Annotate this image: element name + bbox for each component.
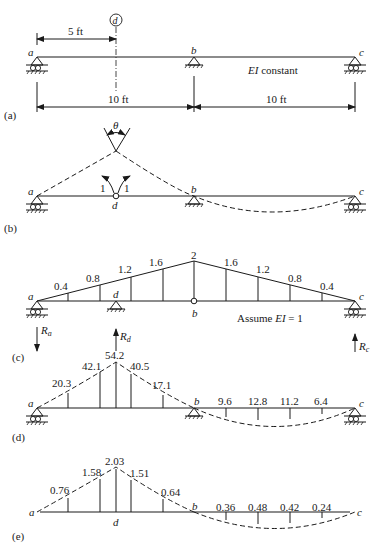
moment-label-left: 1: [100, 182, 106, 194]
node-label-b: b: [194, 395, 200, 407]
node-label-a: a: [28, 185, 34, 197]
ordinate-label: 0.8: [86, 272, 100, 284]
ordinate-peak: 2: [191, 249, 197, 261]
diagram-canvas: a b c d 5 ft 10 ft 10 ft EI constant (a): [0, 0, 388, 554]
dimension-label-ab: 10 ft: [108, 93, 128, 105]
ordinate-label: 20.3: [52, 377, 72, 389]
ordinate-label: 0.48: [248, 501, 268, 513]
pin-support-b: [185, 408, 203, 419]
m-ei-diagram: [37, 261, 355, 301]
ordinate-label: 42.1: [82, 360, 101, 372]
node-label-a: a: [28, 46, 34, 58]
ordinate-label: 40.5: [130, 360, 150, 372]
ordinate-label: 1.6: [224, 256, 238, 268]
panel-d: 20.3 42.1 54.2 40.5 17.1 9.6 12.8 11.2 6…: [12, 349, 366, 444]
node-label-b: b: [192, 307, 198, 319]
pin-support-d: [107, 301, 125, 312]
ordinate-label: 0.4: [54, 280, 68, 292]
dimension-label-ad: 5 ft: [68, 25, 83, 37]
panel-e: 0.76 1.58 2.03 1.51 0.64 0.36 0.48 0.42 …: [12, 455, 362, 543]
dimension-label-bc: 10 ft: [266, 93, 286, 105]
panel-label-b: (b): [4, 222, 17, 235]
moment-label-right: 1: [124, 182, 130, 194]
tangent-left: [104, 128, 116, 151]
ordinate-label: 6.4: [314, 395, 328, 407]
ordinate-label: 12.8: [248, 395, 268, 407]
node-label-d: d: [113, 516, 119, 528]
node-label-a: a: [28, 397, 34, 409]
ordinate-label: 0.42: [280, 501, 299, 513]
node-label-c: c: [359, 185, 364, 197]
deflected-shape-right: [116, 151, 355, 212]
roller-support-a: [26, 408, 48, 425]
node-label-d: d: [113, 288, 119, 300]
node-label-c: c: [357, 506, 362, 518]
reaction-label-c: Rc: [358, 340, 370, 354]
ei-constant-note: EI constant: [247, 64, 298, 76]
angle-theta: θ: [113, 119, 119, 131]
node-label-b: b: [191, 44, 197, 56]
ordinate-label: 1.6: [149, 256, 163, 268]
panel-label-d: (d): [12, 431, 25, 444]
ordinate-label: 0.8: [288, 272, 302, 284]
node-label-d: d: [112, 199, 118, 211]
node-label-c: c: [359, 290, 364, 302]
roller-support-a: [26, 196, 48, 213]
ordinate-label: 0.76: [50, 484, 70, 496]
roller-support-c: [344, 196, 366, 213]
ordinate-label: 1.58: [82, 466, 102, 478]
node-label-b: b: [191, 183, 197, 195]
ordinate-label: 0.64: [161, 486, 181, 498]
reaction-label-a: Ra: [40, 324, 52, 338]
panel-label-c: (c): [12, 351, 25, 364]
ordinate-label: 0.24: [312, 501, 332, 513]
roller-support-c: [344, 301, 366, 318]
ordinate-label: 1.51: [130, 467, 149, 479]
reaction-label-d: Rd: [119, 330, 132, 344]
ordinate-label: 17.1: [152, 379, 171, 391]
panel-label-a: (a): [4, 109, 17, 122]
ordinate-label: 2.03: [105, 455, 125, 467]
deflected-shape-span2: [194, 408, 355, 427]
ordinate-label: 0.36: [216, 501, 236, 513]
roller-support-c: [344, 57, 366, 74]
panel-a: a b c d 5 ft 10 ft 10 ft EI constant (a): [4, 14, 366, 122]
pin-support-b: [185, 57, 203, 68]
rotation-arc: [107, 133, 125, 136]
hinge-b: [191, 298, 197, 304]
hinge-d: [113, 193, 119, 199]
tangent-right: [116, 128, 130, 151]
ordinate-label: 54.2: [105, 349, 124, 361]
ordinate-label: 9.6: [218, 395, 232, 407]
ordinate-label: 1.2: [118, 263, 132, 275]
influence-line-span2: [194, 512, 355, 529]
ordinate-label: 11.2: [280, 395, 299, 407]
panel-c: 0.4 0.8 1.2 1.6 2 1.6 1.2 0.8 0.4 a d b …: [12, 249, 370, 364]
node-label-a: a: [28, 290, 34, 302]
node-label-a: a: [29, 506, 35, 518]
assume-ei-note: Assume EI = 1: [237, 312, 303, 324]
pin-support-b: [185, 196, 203, 207]
roller-support-a: [26, 301, 48, 318]
ordinate-label: 1.2: [256, 263, 270, 275]
roller-support-a: [26, 57, 48, 74]
ordinate-label: 0.4: [320, 280, 334, 292]
node-label-c: c: [359, 397, 364, 409]
roller-support-c: [344, 408, 366, 425]
node-label-b: b: [192, 500, 198, 512]
panel-label-e: (e): [12, 530, 25, 543]
node-label-c: c: [359, 46, 364, 58]
panel-b: θ 1 1 a b c d (b): [4, 119, 366, 235]
